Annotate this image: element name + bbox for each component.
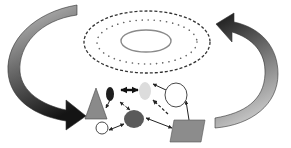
- network-nodes: [85, 82, 205, 142]
- nested-ellipse-field: [84, 11, 210, 73]
- dark-oval-node: [106, 87, 114, 101]
- edge-small-circle-dark-circle: [109, 124, 124, 130]
- small-white-circle-node: [96, 122, 108, 134]
- cycle-diagram: [0, 0, 291, 148]
- outer-dashed-ellipse: [84, 11, 210, 73]
- diagram-canvas: [0, 0, 291, 148]
- edge-parallelogram-dark-circle: [146, 118, 172, 128]
- edge-parallelogram-light-oval: [153, 100, 168, 114]
- middle-dotted-ellipse: [97, 20, 197, 64]
- light-oval-node: [139, 82, 151, 100]
- edge-dark-oval-triangle: [106, 100, 110, 108]
- inner-solid-ellipse: [121, 30, 171, 52]
- parallelogram-node: [170, 120, 205, 142]
- edge-large-circle-light-oval: [153, 84, 166, 90]
- left-cycle-arrow: [8, 5, 86, 130]
- dark-circle-node: [124, 110, 144, 128]
- triangle-node: [85, 88, 107, 119]
- large-white-circle-node: [165, 83, 187, 107]
- edge-parallelogram-large-circle: [186, 101, 189, 120]
- right-cycle-arrow: [215, 13, 278, 128]
- edge-dark-oval-dark-circle: [120, 102, 130, 110]
